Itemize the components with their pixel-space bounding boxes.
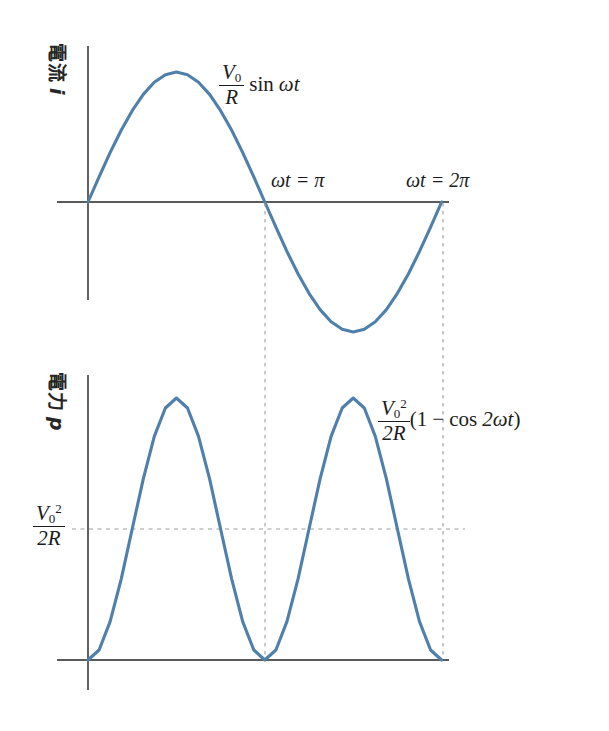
top-y-axis-label-text: 電流 [46,43,68,83]
power-formula-bracket-open: (1 [410,407,428,431]
current-formula-fraction: V0 R [219,62,244,108]
top-y-axis-label-symbol: i [46,88,68,96]
power-y-tick-numerator-sup: 2 [55,501,62,516]
power-formula-numerator: V [381,396,394,420]
power-formula-argument: 2ωt [482,407,513,431]
power-formula-denominator: 2R [382,421,405,445]
power-formula-fraction: V02 2R [378,397,410,444]
current-formula-trig: sin [249,72,274,96]
current-formula-denominator: R [225,85,238,109]
bottom-y-axis-label: 電力p [45,372,72,432]
power-y-tick-fraction: V02 2R [33,502,65,549]
power-y-tick-denominator: 2R [37,526,60,550]
physics-waveform-figure: 電流i V0 R sinωt ωt = π ωt = 2π 電力p V02 2R… [0,0,609,731]
waveform-svg-canvas [0,0,609,731]
power-formula-annotation: V02 2R (1−cos2ωt) [378,398,520,445]
current-formula-numerator-sub: 0 [235,70,242,85]
current-formula-annotation: V0 R sinωt [219,63,300,109]
power-formula-trig: cos [449,407,477,431]
x-tick-label-2pi: ωt = 2π [406,169,469,192]
current-formula-numerator: V [222,60,235,84]
current-formula-argument: ωt [279,72,300,96]
power-y-tick-label: V02 2R [33,503,65,550]
power-y-tick-numerator: V [36,501,49,525]
x-tick-label-pi: ωt = π [271,169,324,192]
power-formula-minus: − [432,407,444,431]
top-y-axis-label: 電流i [45,43,72,96]
power-formula-numerator-sup: 2 [400,396,407,411]
bottom-y-axis-label-text: 電力 [46,372,68,412]
power-formula-bracket-close: ) [513,407,520,431]
bottom-y-axis-label-symbol: p [46,417,68,432]
